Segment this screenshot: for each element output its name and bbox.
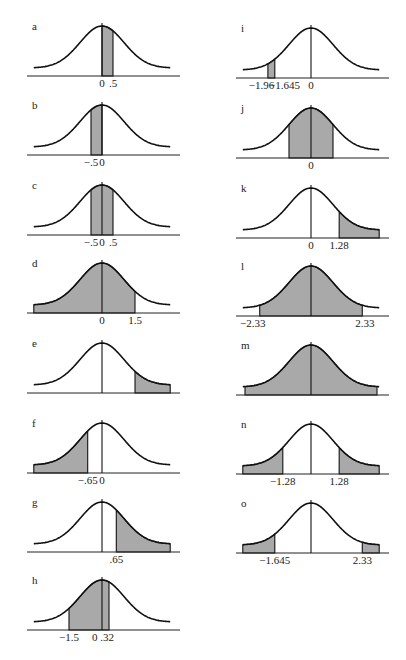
- panel-a: a0.5: [27, 20, 180, 89]
- panel-label: l: [241, 260, 244, 272]
- panel-k: k01.28: [236, 182, 389, 251]
- panel-label: o: [241, 497, 247, 509]
- tick-label: −2.33: [240, 317, 266, 329]
- tick-label: .5: [109, 236, 118, 248]
- tick-label: 2.33: [353, 554, 373, 566]
- panel-label: g: [32, 496, 38, 508]
- panel-d: d01.5: [27, 257, 180, 326]
- panel-label: d: [32, 257, 38, 269]
- tick-label: 1.28: [330, 475, 350, 487]
- tick-label: −1.645: [259, 554, 290, 566]
- normal-curve-figure: a0.5b−.50c−.50.5d01.5ef−.650g.65h−1.50 .…: [0, 0, 406, 660]
- panel-j: j0: [236, 102, 389, 171]
- tick-label: 0: [99, 156, 105, 168]
- panel-l: l−2.332.33: [236, 260, 389, 329]
- panel-b: b−.50: [27, 99, 180, 168]
- panel-e: e: [27, 337, 180, 393]
- tick-label: .65: [109, 553, 123, 565]
- tick-label: −.65: [78, 474, 98, 486]
- tick-label: −1.645: [269, 79, 300, 91]
- panel-label: f: [32, 417, 36, 429]
- shaded-region: [339, 212, 379, 239]
- tick-label: −.5: [84, 236, 99, 248]
- tick-label: 0: [99, 236, 105, 248]
- tick-label: 0 .32: [92, 631, 114, 643]
- panel-label: n: [241, 418, 247, 430]
- shaded-region: [243, 448, 283, 475]
- panel-n: n−1.281.28: [236, 418, 389, 487]
- tick-label: 0: [99, 474, 105, 486]
- panel-m: m: [236, 339, 389, 395]
- tick-label: 0: [99, 314, 105, 326]
- panel-label: e: [32, 337, 37, 349]
- shaded-region: [34, 263, 135, 313]
- shaded-region: [102, 26, 113, 76]
- panel-label: i: [241, 22, 244, 34]
- panel-label: m: [241, 339, 250, 351]
- shaded-region: [34, 431, 88, 473]
- tick-label: −1.28: [270, 475, 296, 487]
- panel-f: f−.650: [27, 417, 180, 486]
- tick-label: 2.33: [355, 317, 375, 329]
- shaded-region: [339, 448, 379, 475]
- panel-i: i−1.96−1.6450: [236, 22, 389, 91]
- tick-label: 1.28: [330, 239, 350, 251]
- panel-label: c: [32, 179, 37, 191]
- tick-label: 0: [308, 159, 314, 171]
- tick-label: 0: [99, 77, 105, 89]
- panel-label: b: [32, 99, 38, 111]
- tick-label: 0: [308, 79, 314, 91]
- tick-label: 1.5: [128, 314, 142, 326]
- shaded-region: [91, 105, 102, 155]
- tick-label: −.5: [84, 156, 99, 168]
- panel-c: c−.50.5: [27, 179, 180, 248]
- panel-o: o−1.6452.33: [236, 497, 389, 566]
- panel-h: h−1.50 .32: [27, 574, 180, 643]
- panel-g: g.65: [27, 496, 180, 565]
- panel-label: j: [240, 102, 244, 114]
- panel-label: k: [241, 182, 247, 194]
- tick-label: 0: [308, 239, 314, 251]
- tick-label: −1.5: [59, 631, 79, 643]
- shaded-region: [116, 510, 170, 552]
- tick-label: .5: [109, 77, 118, 89]
- panel-label: h: [32, 574, 38, 586]
- panel-label: a: [32, 20, 37, 32]
